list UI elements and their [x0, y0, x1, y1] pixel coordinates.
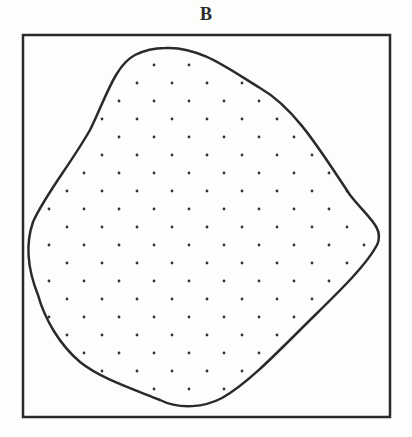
pattern-dot: [136, 118, 139, 121]
pattern-dot: [241, 154, 244, 157]
pattern-dot: [346, 82, 349, 85]
pattern-dot: [241, 370, 244, 373]
pattern-dot: [328, 280, 331, 283]
pattern-dot: [363, 352, 366, 355]
pattern-dot: [48, 100, 51, 103]
pattern-dot: [83, 172, 86, 175]
pattern-dot: [83, 280, 86, 283]
pattern-dot: [66, 154, 69, 157]
pattern-dot: [101, 262, 104, 265]
pattern-dot: [328, 352, 331, 355]
pattern-dot: [223, 100, 226, 103]
pattern-dot: [241, 118, 244, 121]
pattern-dot: [223, 388, 226, 391]
pattern-dot: [83, 244, 86, 247]
pattern-dot: [381, 190, 384, 193]
pattern-dot: [48, 244, 51, 247]
pattern-dot: [118, 316, 121, 319]
pattern-dot: [188, 244, 191, 247]
pattern-dot: [153, 280, 156, 283]
pattern-dot: [276, 154, 279, 157]
pattern-dot: [153, 352, 156, 355]
pattern-dot: [136, 298, 139, 301]
pattern-dot: [171, 154, 174, 157]
pattern-dot: [206, 154, 209, 157]
pattern-dot: [276, 370, 279, 373]
pattern-dot: [66, 82, 69, 85]
pattern-dot: [66, 190, 69, 193]
pattern-dot: [241, 190, 244, 193]
pattern-dot: [171, 118, 174, 121]
pattern-dot: [153, 136, 156, 139]
pattern-dot: [188, 316, 191, 319]
pattern-dot: [101, 370, 104, 373]
pattern-dot: [118, 64, 121, 67]
pattern-dot: [171, 334, 174, 337]
pattern-dot: [293, 280, 296, 283]
pattern-dot: [206, 370, 209, 373]
pattern-dot: [276, 118, 279, 121]
pattern-dot: [311, 298, 314, 301]
pattern-dot: [346, 118, 349, 121]
pattern-dot: [171, 262, 174, 265]
pattern-dot: [311, 226, 314, 229]
pattern-dot: [328, 244, 331, 247]
pattern-dot: [223, 280, 226, 283]
pattern-dot: [346, 370, 349, 373]
pattern-dot: [258, 244, 261, 247]
pattern-dot: [171, 298, 174, 301]
pattern-dot: [101, 190, 104, 193]
pattern-dot: [328, 64, 331, 67]
pattern-dot: [223, 352, 226, 355]
pattern-dot: [206, 118, 209, 121]
pattern-dot: [83, 208, 86, 211]
pattern-dot: [171, 82, 174, 85]
pattern-dot: [363, 64, 366, 67]
pattern-dot: [328, 208, 331, 211]
pattern-dot: [293, 100, 296, 103]
pattern-dot: [118, 388, 121, 391]
pattern-dot: [293, 388, 296, 391]
pattern-dot: [381, 262, 384, 265]
pattern-dot: [363, 280, 366, 283]
pattern-dot: [48, 64, 51, 67]
pattern-dot: [381, 154, 384, 157]
pattern-dot: [48, 352, 51, 355]
pattern-dot: [101, 226, 104, 229]
pattern-dot: [293, 352, 296, 355]
pattern-dot: [136, 226, 139, 229]
pattern-dot: [258, 136, 261, 139]
pattern-dot: [241, 226, 244, 229]
pattern-dot: [66, 334, 69, 337]
pattern-dot: [258, 64, 261, 67]
pattern-dot: [258, 172, 261, 175]
pattern-dot: [311, 118, 314, 121]
pattern-dot: [136, 82, 139, 85]
pattern-dot: [363, 316, 366, 319]
pattern-dot: [311, 370, 314, 373]
pattern-dot: [381, 370, 384, 373]
pattern-dot: [346, 262, 349, 265]
pattern-dot: [188, 136, 191, 139]
pattern-dot: [118, 352, 121, 355]
pattern-dot: [311, 334, 314, 337]
pattern-dot: [188, 352, 191, 355]
pattern-dot: [293, 208, 296, 211]
pattern-dot: [188, 280, 191, 283]
pattern-dot: [328, 388, 331, 391]
pattern-dot: [66, 262, 69, 265]
pattern-dot: [48, 172, 51, 175]
pattern-dot: [66, 226, 69, 229]
pattern-dot: [363, 100, 366, 103]
pattern-dot: [223, 172, 226, 175]
pattern-dot: [363, 244, 366, 247]
pattern-dot: [276, 334, 279, 337]
pattern-dot: [363, 388, 366, 391]
pattern-dot: [66, 298, 69, 301]
pattern-dot: [328, 100, 331, 103]
pattern-dot: [171, 370, 174, 373]
pattern-dot: [311, 82, 314, 85]
blob-outline: [28, 48, 379, 406]
pattern-dot: [328, 136, 331, 139]
pattern-dot: [171, 190, 174, 193]
